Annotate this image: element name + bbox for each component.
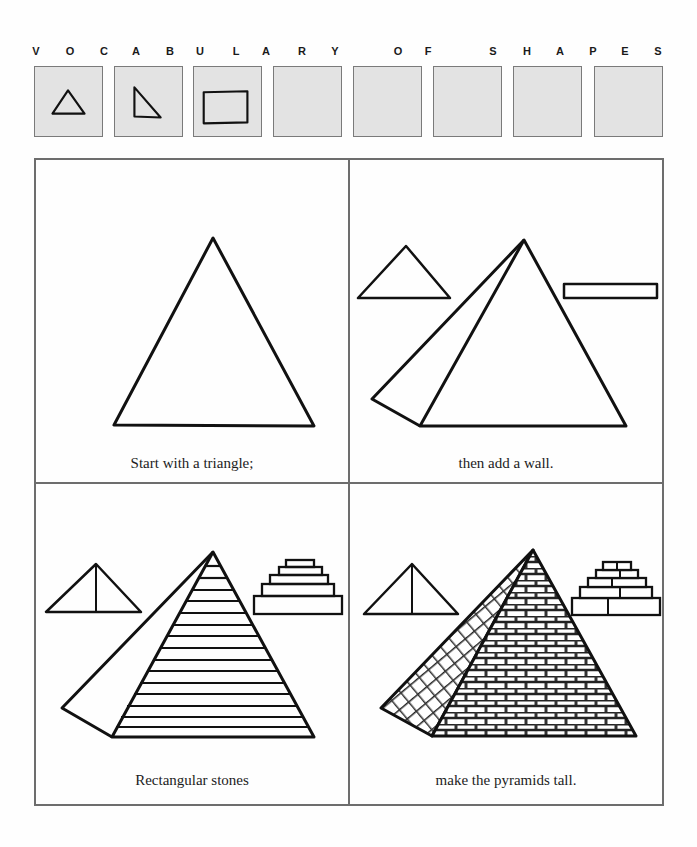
title-letter: C: [98, 45, 110, 57]
panel-step-3: Rectangular stones: [36, 484, 348, 806]
rectangle-icon: [194, 67, 261, 136]
vocab-box-triangle: [34, 66, 103, 137]
title-letter: A: [260, 45, 272, 57]
title-letter: R: [296, 45, 308, 57]
triangle-drawing: [36, 160, 348, 482]
title-letter: B: [164, 45, 176, 57]
steps-grid: Start with a triangle; then add a wall.: [34, 158, 664, 806]
title-letter: O: [64, 45, 76, 57]
title-letter: A: [554, 45, 566, 57]
title-letter: S: [652, 45, 664, 57]
vocab-box-empty: [433, 66, 502, 137]
pyramid-stones-drawing: [36, 484, 348, 806]
title-letter: A: [130, 45, 142, 57]
title-letter: H: [521, 45, 533, 57]
caption: Start with a triangle;: [36, 455, 348, 472]
title-letter: L: [230, 45, 242, 57]
panel-step-2: then add a wall.: [350, 160, 662, 482]
caption: Rectangular stones: [36, 772, 348, 789]
vocab-box-empty: [594, 66, 663, 137]
vocab-box-empty: [353, 66, 422, 137]
pyramid-with-wall-drawing: [350, 160, 662, 482]
title-letter: Y: [329, 45, 341, 57]
title-letter: E: [619, 45, 631, 57]
panel-step-1: Start with a triangle;: [36, 160, 348, 482]
title-letter: U: [194, 45, 206, 57]
vocab-box-rectangle: [193, 66, 262, 137]
title-letter: F: [422, 45, 434, 57]
title-letter: S: [487, 45, 499, 57]
title-letter: V: [30, 45, 42, 57]
title-letter: O: [392, 45, 404, 57]
title-letter: P: [587, 45, 599, 57]
panel-step-4: make the pyramids tall.: [350, 484, 662, 806]
caption: then add a wall.: [350, 455, 662, 472]
vocab-box-right-triangle: [114, 66, 183, 137]
triangle-icon: [35, 67, 102, 136]
vocab-box-empty: [273, 66, 342, 137]
caption: make the pyramids tall.: [350, 772, 662, 789]
right-triangle-icon: [115, 67, 182, 136]
pyramid-bricks-drawing: [350, 484, 662, 806]
vocab-box-empty: [513, 66, 582, 137]
